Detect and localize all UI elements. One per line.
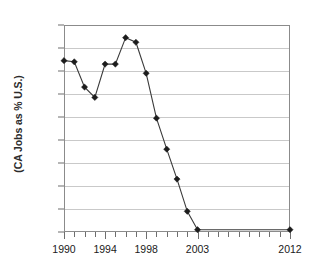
data-point-marker: [102, 61, 108, 67]
data-point-marker: [133, 39, 139, 45]
data-point-marker: [71, 59, 77, 65]
data-point-marker: [61, 58, 67, 64]
data-point-marker: [164, 146, 170, 152]
series-markers: [61, 35, 293, 233]
data-point-marker: [184, 208, 190, 214]
data-series-layer: [0, 0, 309, 275]
data-point-marker: [287, 227, 293, 233]
series-line: [64, 38, 290, 230]
data-point-marker: [112, 61, 118, 67]
data-point-marker: [143, 70, 149, 76]
chart-container: (CA Jobs as % U.S.) 36%34%32%30%28%26%24…: [0, 0, 309, 275]
data-point-marker: [194, 227, 200, 233]
data-point-marker: [174, 176, 180, 182]
data-point-marker: [153, 115, 159, 121]
data-point-marker: [123, 35, 129, 41]
